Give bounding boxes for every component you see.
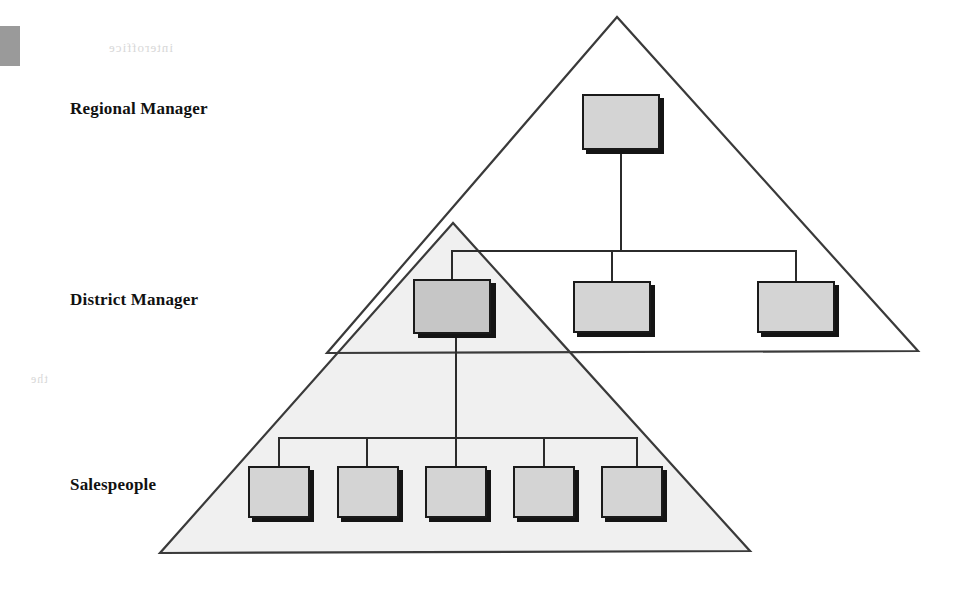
regional-manager-box: [582, 94, 660, 150]
district-manager-box-3: [757, 281, 835, 333]
district-manager-box-2: [573, 281, 651, 333]
salesperson-box-4: [513, 466, 575, 518]
district-manager-box-1: [413, 279, 491, 334]
diagram-page: interoffice the managing the level Regio…: [0, 0, 953, 600]
row-label-district-manager: District Manager: [70, 290, 198, 310]
row-label-salespeople: Salespeople: [70, 475, 156, 495]
salesperson-box-2: [337, 466, 399, 518]
row-label-regional-manager: Regional Manager: [70, 99, 208, 119]
salesperson-box-1: [248, 466, 310, 518]
salesperson-box-5: [601, 466, 663, 518]
salesperson-box-3: [425, 466, 487, 518]
